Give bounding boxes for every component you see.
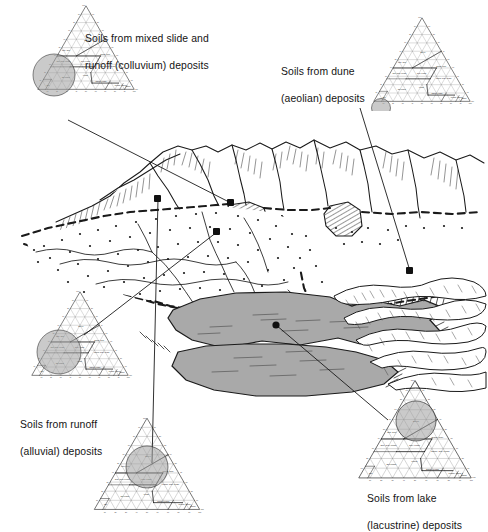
tick-clay-40: 40 (377, 437, 379, 439)
tick-silt-80: 80 (462, 457, 464, 459)
tick-sand-20: 20 (392, 103, 394, 104)
texture-class-sandy-clay: Sandy Clay (432, 436, 445, 438)
tick-sand-100: 100 (133, 91, 136, 92)
tick-sand-50: 50 (79, 377, 81, 378)
tick-sand-20: 20 (380, 479, 382, 481)
tick-silt-60: 60 (450, 437, 452, 439)
tick-sand-100: 100 (470, 479, 473, 481)
lacustrine-triangle-highlight-circle (396, 401, 436, 441)
tick-clay-70: 70 (404, 42, 406, 43)
tick-sand-50: 50 (414, 479, 416, 481)
texture-class-sandy-loam: Sandy Loam (431, 92, 442, 94)
tick-clay-90: 90 (414, 26, 416, 27)
caption-aeolian-line1: Soils from dune (281, 66, 355, 77)
mountain-range (56, 140, 484, 222)
texture-class-loamy-sand: Loamy Sand (451, 96, 462, 98)
tick-silt-70: 70 (185, 481, 187, 483)
texture-class-sandy-clay: Sandy Clay (436, 65, 446, 67)
texture-class-silt: Silt (383, 96, 386, 98)
tick-silt-10: 10 (86, 300, 88, 301)
marker-alluvial (213, 228, 220, 235)
tick-sand-90: 90 (188, 511, 190, 513)
tick-sand-10: 10 (41, 377, 43, 378)
tick-silt-100: 100 (201, 508, 204, 510)
tick-sand-70: 70 (167, 511, 169, 513)
texture-class-sand: Sand (462, 97, 467, 99)
tick-sand-70: 70 (98, 377, 100, 378)
tick-sand-30: 30 (60, 377, 62, 378)
tick-clay-60: 60 (63, 39, 65, 40)
tick-silt-60: 60 (116, 55, 118, 56)
tick-sand-100: 100 (198, 511, 201, 513)
tick-clay-70: 70 (394, 408, 396, 410)
texture-class-silty-clay: Silty Clay (387, 431, 397, 433)
tick-clay-10: 10 (33, 366, 35, 367)
tick-silt-100: 100 (129, 375, 132, 376)
tick-sand-90: 90 (460, 103, 462, 104)
caption-alluvial-line1: Soils from runoff (20, 419, 97, 430)
tick-clay-80: 80 (400, 398, 402, 400)
tick-clay-80: 80 (409, 34, 411, 35)
tick-clay-60: 60 (57, 325, 59, 326)
tick-silt-40: 40 (101, 325, 103, 326)
tick-silt-60: 60 (452, 67, 454, 68)
texture-class-sandy-loam: Sandy Loam (426, 468, 439, 470)
marker-colluvium (227, 199, 234, 206)
tick-sand-80: 80 (114, 91, 116, 92)
texture-class-loamy-sand: Loamy Sand (115, 84, 126, 86)
tick-silt-80: 80 (120, 358, 122, 359)
texture-class-sand: Sand (190, 505, 196, 507)
tick-clay-80: 80 (73, 22, 75, 23)
colluvium-triangle-highlight-circle (33, 54, 75, 96)
tick-silt-70: 70 (456, 447, 458, 449)
tick-clay-100: 100 (76, 291, 79, 292)
texture-class-silty-clay-loam: Silty Clay Loam (392, 72, 406, 74)
tick-sand-40: 40 (75, 91, 77, 92)
tick-silt-30: 30 (434, 408, 436, 410)
texture-class-clay-loam: Clay Loam (417, 72, 427, 74)
alluvial-fan-triangle-highlight-circle (126, 446, 168, 488)
tick-silt-90: 90 (196, 499, 198, 501)
tick-sand-90: 90 (124, 91, 126, 92)
texture-class-silty-clay: Silty Clay (398, 61, 406, 63)
tick-sand-30: 30 (402, 103, 404, 104)
texture-class-silt-loam: Silt Loam (387, 463, 397, 465)
tick-silt-50: 50 (175, 462, 177, 464)
marker-aeolian (406, 267, 413, 274)
texture-class-clay-loam: Clay Loam (409, 444, 420, 446)
texture-class-sandy-loam: Sandy Loam (89, 366, 100, 368)
tick-silt-100: 100 (471, 101, 474, 102)
tick-silt-30: 30 (438, 42, 440, 43)
tick-clay-50: 50 (395, 59, 397, 60)
tick-silt-30: 30 (96, 316, 98, 317)
tick-silt-30: 30 (164, 444, 166, 446)
texture-class-clay: CLAY (84, 39, 90, 41)
texture-class-sandy-clay-loam: Sandy Clay Loam (100, 65, 116, 67)
tick-silt-100: 100 (472, 476, 475, 478)
tick-sand-70: 70 (104, 91, 106, 92)
tick-silt-20: 20 (428, 398, 430, 400)
tick-clay-30: 30 (372, 447, 374, 449)
tick-clay-80: 80 (133, 435, 135, 437)
tick-clay-50: 50 (117, 462, 119, 464)
tick-sand-30: 30 (391, 479, 393, 481)
tick-sand-20: 20 (50, 377, 52, 378)
tick-silt-90: 90 (467, 467, 469, 469)
tick-silt-60: 60 (110, 341, 112, 342)
colluvium-triangle: CLAYSilty ClaySandy ClaySilty Clay LoamC… (32, 2, 140, 99)
tick-silt-80: 80 (462, 84, 464, 85)
texture-class-sand: Sand (461, 474, 467, 476)
alluvial-fan (26, 206, 463, 300)
tick-sand-70: 70 (440, 103, 442, 104)
texture-class-sandy-clay-loam: Sandy Clay Loam (94, 351, 110, 353)
marker-fan (154, 195, 161, 202)
texture-class-sandy-loam: Sandy Loam (157, 500, 169, 502)
tick-clay-40: 40 (112, 471, 114, 473)
alluvial-triangle-highlight-circle (37, 330, 81, 374)
tick-sand-50: 50 (85, 91, 87, 92)
tick-clay-60: 60 (122, 453, 124, 455)
tick-silt-40: 40 (443, 51, 445, 52)
tick-sand-10: 10 (104, 511, 106, 513)
tick-silt-10: 10 (428, 26, 430, 27)
